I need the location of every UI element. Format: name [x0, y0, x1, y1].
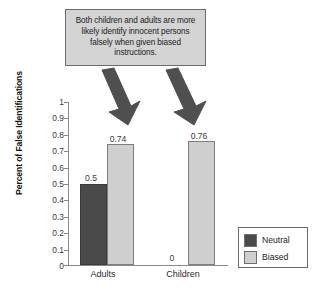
data-label-children-biased: 0.76 — [182, 131, 216, 141]
y-axis-tick-labels: 1 0.9 0.8 0.7 0.6 0.5 0.4 0.3 0.2 0.1 0 — [36, 102, 64, 266]
bar-children-biased — [188, 141, 215, 265]
y-tick-label: 0.3 — [38, 212, 64, 222]
bar-chart-figure: Both children and adults are more likely… — [0, 0, 314, 304]
y-tick-label: 0.2 — [38, 228, 64, 238]
y-tick-label: 0.7 — [38, 146, 64, 156]
data-label-adults-biased: 0.74 — [101, 134, 135, 144]
y-tick-label: 0 — [38, 261, 64, 271]
x-axis-line — [68, 265, 228, 266]
y-tick-label: 0.5 — [38, 179, 64, 189]
y-axis-title: Percent of False Identifications — [14, 58, 24, 208]
y-tick-label: 0.9 — [38, 113, 64, 123]
legend-label-neutral: Neutral — [262, 235, 290, 245]
x-category-label-children: Children — [148, 269, 218, 279]
x-category-label-adults: Adults — [68, 269, 138, 279]
legend: Neutral Biased — [238, 227, 308, 268]
legend-swatch-neutral — [244, 234, 257, 247]
y-tick-label: 0.8 — [38, 130, 64, 140]
legend-label-biased: Biased — [262, 252, 288, 262]
data-label-children-neutral: 0 — [155, 253, 189, 263]
y-tick-label: 0.4 — [38, 195, 64, 205]
bar-adults-biased — [107, 144, 134, 265]
y-tick-label: 1 — [38, 97, 64, 107]
y-tick-label: 0.6 — [38, 163, 64, 173]
callout-box: Both children and adults are more likely… — [65, 9, 206, 66]
y-tick-label: 0.1 — [38, 245, 64, 255]
bar-adults-neutral — [80, 184, 107, 266]
data-label-adults-neutral: 0.5 — [74, 173, 108, 183]
bars-area — [69, 102, 228, 265]
legend-item-biased: Biased — [244, 249, 307, 265]
callout-text: Both children and adults are more likely… — [66, 16, 205, 58]
legend-swatch-biased — [244, 251, 257, 264]
legend-item-neutral: Neutral — [244, 232, 307, 248]
